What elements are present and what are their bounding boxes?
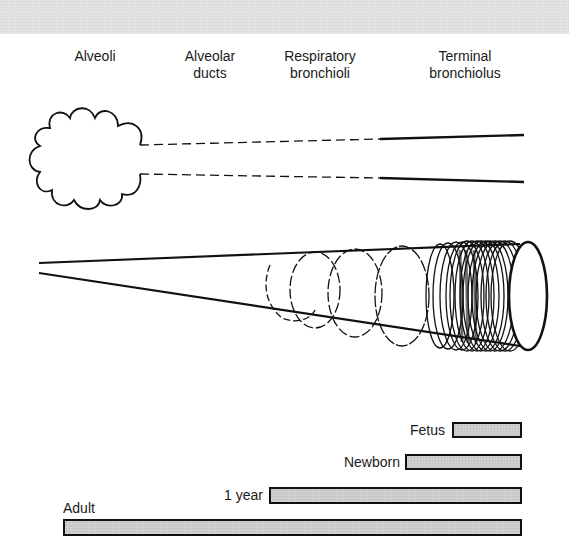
bar-newborn <box>405 454 522 470</box>
bar-label-adult: Adult <box>63 500 95 516</box>
airway-cone <box>39 241 547 351</box>
bar-label-1-year: 1 year <box>200 487 263 503</box>
bar-adult <box>63 519 522 536</box>
bar-label-newborn: Newborn <box>320 454 400 470</box>
diagram-art <box>0 0 569 554</box>
alveolar-duct-lines <box>140 135 524 182</box>
bar-fetus <box>452 422 522 438</box>
bar-1-year <box>269 487 522 504</box>
bar-label-fetus: Fetus <box>395 422 445 438</box>
alveoli-cloud-icon <box>30 108 142 209</box>
